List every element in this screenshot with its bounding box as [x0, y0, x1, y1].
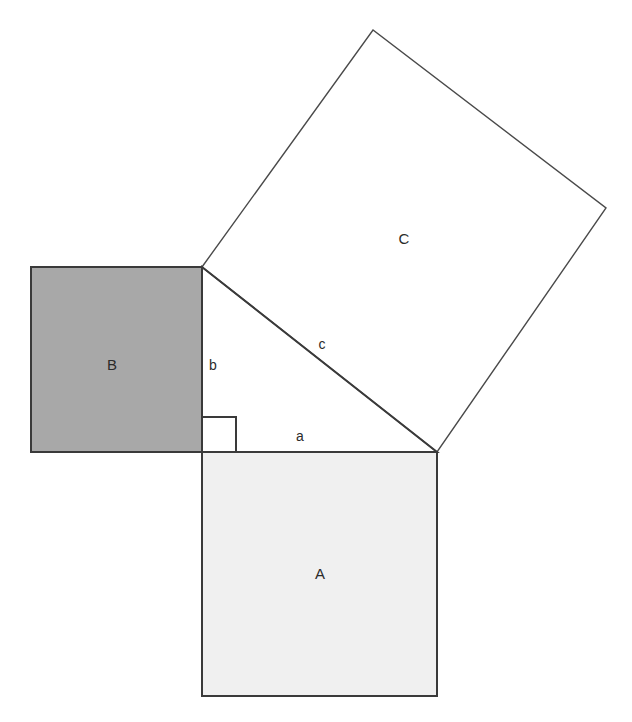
side-a-label: a: [296, 428, 304, 444]
side-c-label: c: [319, 336, 326, 352]
square-a-label: A: [315, 565, 325, 582]
diagram-canvas: A B C a b c: [0, 0, 632, 722]
right-angle-marker-icon: [202, 417, 236, 452]
square-b-label: B: [107, 356, 117, 373]
pythagorean-diagram: A B C a b c: [0, 0, 632, 722]
side-b-label: b: [209, 357, 217, 373]
square-c-label: C: [399, 230, 410, 247]
